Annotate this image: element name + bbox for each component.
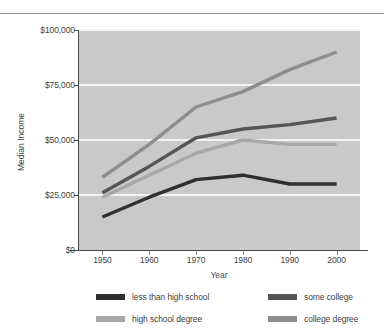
legend-label-college-degree: college degree (304, 314, 358, 324)
legend-item-some-college[interactable]: some college (268, 292, 353, 302)
legend-swatch-high-school-degree (96, 316, 125, 322)
legend-swatch-college-degree (268, 316, 297, 322)
legend-item-less-than-high-school[interactable]: less than high school (96, 292, 209, 302)
x-tick-label: 1970 (187, 255, 206, 265)
legend-label-less-than-high-school: less than high school (132, 292, 209, 302)
legend-label-high-school-degree: high school degree (132, 314, 202, 324)
legend-label-some-college: some college (304, 292, 353, 302)
y-tick-label: $25,000 (45, 190, 75, 200)
y-tick-label: $50,000 (45, 135, 75, 145)
x-axis-line (70, 250, 368, 251)
x-tick-label: 1960 (140, 255, 159, 265)
x-axis-title: Year (210, 270, 227, 280)
y-tick-label: $100,000 (40, 25, 75, 35)
x-tick-label: 1990 (280, 255, 299, 265)
legend-item-college-degree[interactable]: college degree (268, 314, 358, 324)
legend-swatch-some-college (268, 294, 297, 300)
series-line-college-degree (102, 52, 336, 177)
x-tick-label: 1950 (93, 255, 112, 265)
x-tick-label: 1980 (234, 255, 253, 265)
legend-swatch-less-than-high-school (96, 294, 125, 300)
series-line-high-school-degree (102, 140, 336, 197)
x-tick-label: 2000 (327, 255, 346, 265)
chart-figure: $0$25,000$50,000$75,000$100,000 19501960… (0, 14, 384, 334)
y-axis-title: Median Income (16, 113, 26, 171)
y-tick-label: $75,000 (45, 80, 75, 90)
series-lines-group (79, 30, 360, 250)
chart-page: $0$25,000$50,000$75,000$100,000 19501960… (0, 0, 384, 334)
legend-item-high-school-degree[interactable]: high school degree (96, 314, 202, 324)
chart-legend: less than high school high school degree… (0, 290, 384, 334)
y-tick-label: $0 (66, 245, 75, 255)
